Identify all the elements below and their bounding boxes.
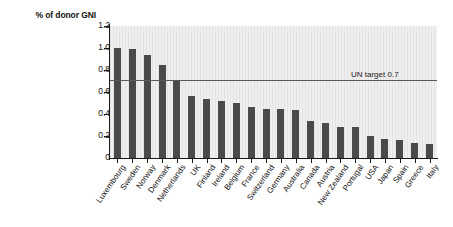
bar [114, 48, 121, 158]
y-tick-mark [104, 114, 109, 115]
y-tick-mark [104, 70, 109, 71]
plot-area [110, 26, 437, 158]
y-tick-mark [104, 26, 109, 27]
un-target-line [110, 80, 437, 81]
donor-gni-bar-chart: % of donor GNI 1.21.00.80.60.40.20 UN ta… [0, 0, 453, 227]
y-tick-label: 0 [86, 153, 110, 162]
x-tick-mark [117, 159, 118, 163]
y-tick-mark [104, 48, 109, 49]
y-tick-mark [104, 92, 109, 93]
y-tick-mark [104, 136, 109, 137]
un-target-label: UN target 0.7 [351, 70, 399, 79]
